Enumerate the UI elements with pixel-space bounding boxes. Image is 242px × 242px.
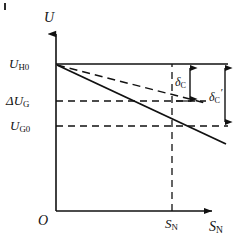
curve-solid-characteristic — [57, 65, 226, 144]
scan-artifact-speck — [4, 3, 6, 10]
figure-canvas: U SN O UH0 ΔUG UG0 SN δC δC′ — [0, 0, 242, 242]
y-tick-label-u-h0: UH0 — [9, 57, 29, 72]
y-axis-label: U — [44, 11, 54, 25]
curves-group — [57, 65, 226, 144]
annotation-label-delta-c: δC — [175, 76, 186, 90]
y-tick-label-delta-u-g: ΔUG — [6, 94, 29, 109]
annotation-label-delta-c-prime: δC′ — [209, 87, 222, 105]
diagram-svg — [0, 0, 242, 242]
y-tick-label-u-g0: UG0 — [10, 119, 30, 134]
axis-group — [56, 34, 212, 211]
x-tick-label-s-n: SN — [165, 217, 178, 232]
reference-lines-group — [56, 64, 228, 126]
origin-label: O — [38, 214, 48, 228]
x-axis-label: SN — [209, 220, 223, 236]
